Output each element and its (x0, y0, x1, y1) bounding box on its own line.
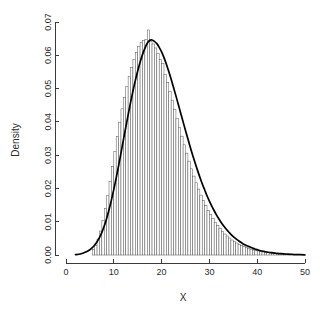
histogram-bar (233, 242, 235, 255)
histogram-bar (176, 118, 178, 255)
histogram-bar (171, 100, 173, 255)
x-axis-tick-label: 0 (63, 267, 68, 277)
histogram-bar (214, 222, 216, 255)
histogram-bar (224, 234, 226, 255)
histogram-bar (183, 145, 185, 255)
histogram-bar (217, 226, 219, 255)
y-axis-title: Density (10, 123, 21, 156)
histogram-bar (174, 109, 176, 255)
x-axis-title: X (180, 292, 187, 303)
histogram-bar (152, 44, 154, 255)
histogram-bar (197, 189, 199, 255)
histogram-bar (154, 48, 156, 255)
histogram-bar (162, 63, 164, 255)
x-axis-tick-label: 10 (109, 267, 119, 277)
histogram-bar (257, 251, 259, 255)
histogram-bar (121, 109, 123, 255)
histogram-bar (157, 53, 159, 255)
histogram-bar (240, 246, 242, 255)
histogram-bar (231, 240, 233, 255)
y-axis-tick-label: 0.06 (43, 47, 53, 65)
histogram-bar (109, 181, 111, 255)
histogram-density-plot: 01020304050 0.000.010.020.030.040.050.06… (0, 0, 332, 318)
histogram-bar (140, 43, 142, 255)
histogram-bar (119, 122, 121, 255)
y-axis-tick-label: 0.05 (43, 80, 53, 98)
histogram-bar (104, 209, 106, 255)
histogram-bar (207, 210, 209, 255)
y-axis-tick-label: 0.02 (43, 180, 53, 198)
histogram-bar (252, 250, 254, 255)
histogram-bar (126, 87, 128, 255)
histogram-bar (123, 97, 125, 255)
histogram-bar (147, 30, 149, 255)
histogram-bar (190, 169, 192, 255)
histogram-bar (164, 74, 166, 255)
x-axis-tick-label: 30 (204, 267, 214, 277)
histogram-bar (188, 161, 190, 255)
histogram-bar (195, 183, 197, 255)
histogram-bar (229, 238, 231, 255)
histogram-bar (145, 39, 147, 255)
histogram-bar (212, 219, 214, 255)
histogram-bar (200, 195, 202, 255)
histogram-bar (166, 83, 168, 255)
y-axis-tick-label: 0.00 (43, 246, 53, 264)
histogram-bar (138, 47, 140, 255)
histogram-bar (202, 201, 204, 255)
histogram-bar (150, 41, 152, 255)
histogram-bar (245, 248, 247, 255)
histogram-bar (260, 252, 262, 255)
histogram-bar (250, 249, 252, 255)
histogram-bar (114, 151, 116, 255)
y-axis-tick-label: 0.04 (43, 113, 53, 131)
histogram-bar (219, 229, 221, 255)
histogram-bar (111, 166, 113, 255)
histogram-bar (243, 247, 245, 255)
x-axis-tick-label: 20 (157, 267, 167, 277)
histogram-bar (221, 231, 223, 255)
histogram-bar (186, 153, 188, 255)
histogram-bar (92, 250, 94, 255)
histogram-bar (262, 252, 264, 255)
histogram-bar (142, 40, 144, 255)
histogram-bar (95, 245, 97, 255)
plot-canvas: 01020304050 0.000.010.020.030.040.050.06… (0, 0, 332, 318)
y-axis-tick-label: 0.07 (43, 13, 53, 31)
histogram-bar (107, 196, 109, 255)
x-axis-tick-label: 40 (252, 267, 262, 277)
y-axis-tick-label: 0.03 (43, 146, 53, 164)
histogram-bar (181, 136, 183, 255)
histogram-bar (209, 215, 211, 255)
y-axis-tick-label: 0.01 (43, 213, 53, 231)
x-axis-tick-label: 50 (300, 267, 310, 277)
histogram-bar (116, 137, 118, 256)
histogram-bar (255, 251, 257, 255)
histogram-bar (236, 243, 238, 255)
histogram-bar (178, 127, 180, 255)
histogram-bar (226, 236, 228, 255)
histogram-bar (159, 60, 161, 255)
histogram-bar (248, 248, 250, 255)
histogram-bar (238, 244, 240, 255)
histogram-bar (193, 176, 195, 255)
histogram-bar (169, 91, 171, 255)
histogram-bar (205, 206, 207, 255)
